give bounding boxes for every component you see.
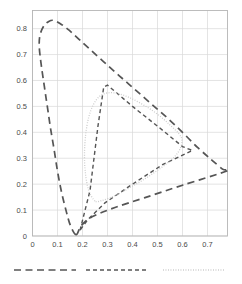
chromaticity-chart: 00.10.20.30.40.50.60.7 00.10.20.30.40.50…	[0, 0, 242, 284]
y-tick-label: 0.2	[17, 180, 27, 189]
y-tick-label: 0.7	[17, 50, 27, 59]
x-tick-label: 0.7	[202, 240, 212, 249]
x-tick-label: 0.6	[177, 240, 187, 249]
x-tick-label: 0.2	[77, 240, 87, 249]
x-tick-label: 0.1	[52, 240, 62, 249]
y-tick-label: 0.6	[17, 76, 27, 85]
y-tick-label: 0.5	[17, 102, 27, 111]
y-tick-label: 0	[23, 232, 27, 241]
y-tick-label: 0.1	[17, 206, 27, 215]
y-tick-label: 0.3	[17, 154, 27, 163]
x-tick-label: 0	[30, 240, 34, 249]
x-tick-label: 0.5	[152, 240, 162, 249]
y-tick-labels: 00.10.20.30.40.50.60.70.8	[17, 24, 27, 240]
x-tick-label: 0.4	[127, 240, 137, 249]
x-tick-label: 0.3	[102, 240, 112, 249]
y-tick-label: 0.4	[17, 128, 27, 137]
y-tick-label: 0.8	[17, 24, 27, 33]
